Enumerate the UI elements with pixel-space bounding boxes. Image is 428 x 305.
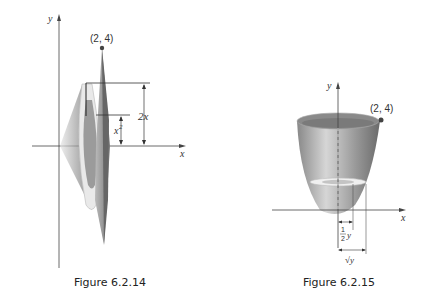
caption-figure-6-2-15: Figure 6.2.15 — [303, 276, 375, 289]
y-axis-label: y — [47, 13, 53, 24]
figures-canvas: y x (2, 4) 2x x 2 y x (2, 4) — [0, 0, 428, 305]
dim-half-var: y — [346, 230, 351, 240]
x-axis-label: x — [400, 212, 406, 223]
caption-figure-6-2-14: Figure 6.2.14 — [74, 276, 146, 289]
dim-sqrt-y: √y — [345, 255, 354, 265]
dim-2x: 2x — [138, 110, 149, 122]
point-marker — [100, 46, 104, 50]
point-marker — [379, 118, 384, 123]
dim-sup: 2 — [119, 123, 123, 131]
y-axis-label: y — [326, 80, 332, 91]
dim-half-num: 1 — [341, 226, 345, 233]
point-label: (2, 4) — [90, 33, 113, 44]
y-axis-arrow-icon — [336, 82, 340, 89]
point-label: (2, 4) — [370, 103, 393, 114]
dim-half-den: 2 — [341, 235, 345, 242]
figure-6-2-14: y x (2, 4) 2x x 2 — [32, 13, 186, 268]
figure-6-2-15: y x (2, 4) 1 2 y √y — [272, 80, 406, 265]
x-axis-label: x — [179, 148, 185, 159]
y-axis-arrow-icon — [57, 14, 61, 21]
